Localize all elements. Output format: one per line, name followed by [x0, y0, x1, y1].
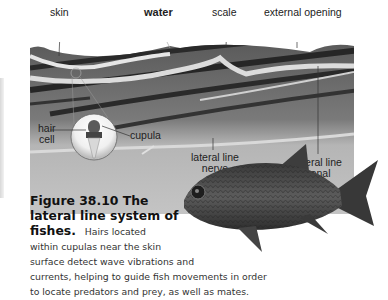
label-cupula: cupula — [130, 130, 161, 141]
label-scale: scale — [212, 7, 237, 18]
figure-caption: Figure 38.10 The lateral line system of … — [30, 193, 280, 299]
label-skin: skin — [50, 7, 69, 18]
caption-body-line3: surface detect wave vibrations and — [30, 254, 280, 269]
caption-body-line4: currents, helping to guide fish movement… — [30, 269, 280, 284]
caption-title: Figure 38.10 The — [30, 193, 280, 208]
caption-body-line2: within cupulas near the skin — [30, 239, 280, 254]
label-external-opening: external opening — [264, 7, 342, 18]
label-hair-cell: hair cell — [38, 123, 56, 145]
page-edge-shadow — [0, 78, 4, 198]
caption-body-line1: fishes. Hairs located — [30, 223, 195, 239]
label-water: water — [144, 7, 173, 18]
caption-body-line5: to locate predators and prey, as well as… — [30, 284, 280, 299]
caption-title-line2: lateral line system of — [30, 208, 280, 223]
